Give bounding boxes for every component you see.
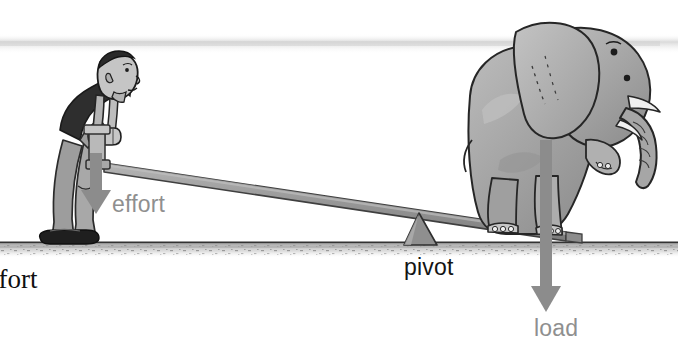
pivot-label: pivot xyxy=(404,256,454,279)
diagram-canvas xyxy=(0,0,678,347)
elephant-figure xyxy=(464,23,660,235)
ground xyxy=(0,243,678,259)
load-label: load xyxy=(534,317,578,340)
lever-diagram: effort pivot load ffort xyxy=(0,0,678,347)
effort-label: effort xyxy=(112,193,165,216)
cut-off-caption: ffort xyxy=(0,266,38,293)
